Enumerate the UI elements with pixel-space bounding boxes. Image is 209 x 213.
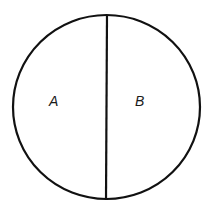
region-label-a: A (48, 93, 58, 109)
region-label-b: B (135, 93, 144, 109)
divided-circle-diagram: A B (0, 0, 209, 213)
dividing-line (106, 15, 107, 199)
